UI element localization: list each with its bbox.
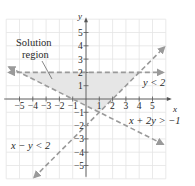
x-axis-label: x (172, 104, 177, 114)
x-tick-label: −3 (41, 101, 51, 111)
label-x-minus-y-lt-2: x − y < 2 (10, 140, 51, 151)
y-tick-label: 1 (78, 81, 83, 91)
x-tick-label: −5 (15, 101, 25, 111)
x-tick-label: 3 (123, 101, 128, 111)
x-tick-label: 2 (110, 101, 115, 111)
y-tick-label: 3 (78, 55, 83, 65)
y-tick-label: 2 (78, 68, 83, 78)
y-tick-label: 4 (78, 41, 83, 51)
label-x-plus-2y-gt-neg1: x + 2y > −1 (128, 115, 181, 126)
y-tick-label: −2 (74, 121, 84, 131)
y-tick-label: −1 (74, 108, 84, 118)
x-tick-label: −2 (54, 101, 64, 111)
y-tick-label: 5 (78, 28, 83, 38)
x-tick-label: 5 (150, 101, 155, 111)
y-tick-label: −3 (74, 134, 84, 144)
y-axis-label: y (77, 11, 82, 21)
y-tick-label: −4 (74, 148, 84, 158)
y-tick-label: −5 (74, 161, 84, 171)
graph-of-inequalities: −5−4−3−2−112345−5−4−3−2−112345 x y Solut… (0, 0, 195, 186)
solution-region-label: Solution (16, 37, 52, 48)
x-tick-label: −4 (28, 101, 38, 111)
solution-region-label-2: region (22, 49, 50, 60)
x-tick-label: 1 (97, 101, 102, 111)
label-y-lt-2: y < 2 (142, 77, 166, 88)
x-tick-label: 4 (137, 101, 142, 111)
